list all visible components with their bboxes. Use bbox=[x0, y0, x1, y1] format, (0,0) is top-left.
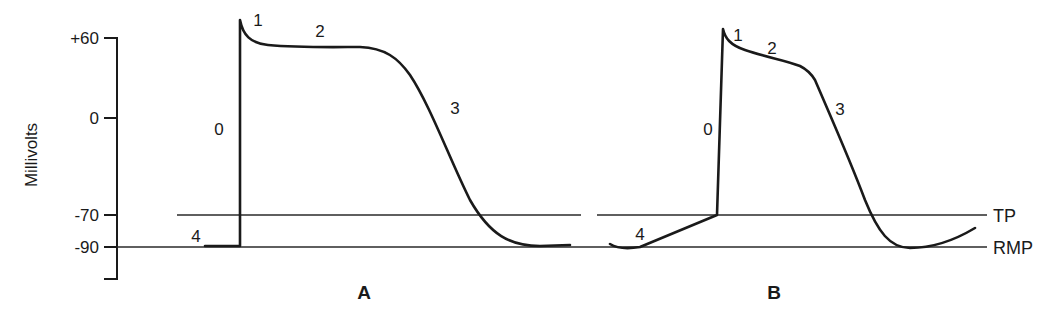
phase-label-b-0: 0 bbox=[703, 120, 712, 139]
tp-label: TP bbox=[993, 206, 1016, 226]
phase-label-b-2: 2 bbox=[767, 39, 776, 58]
phase-label-b-1: 1 bbox=[733, 26, 742, 45]
phase-label-a-1: 1 bbox=[253, 11, 262, 30]
phase-label-a-3: 3 bbox=[450, 99, 459, 118]
y-axis-label: Millivolts bbox=[22, 123, 41, 187]
phase-label-b-4: 4 bbox=[635, 225, 644, 244]
reference-lines: TP RMP bbox=[117, 206, 1033, 258]
tick-label-plus60: +60 bbox=[70, 29, 99, 48]
phase-label-a-4: 4 bbox=[191, 227, 200, 246]
y-axis: +60 0 -70 -90 Millivolts bbox=[22, 29, 117, 279]
panel-a: 0 1 2 3 4 A bbox=[191, 11, 570, 303]
rmp-label: RMP bbox=[993, 238, 1033, 258]
phase-label-a-2: 2 bbox=[315, 22, 324, 41]
y-axis-line bbox=[104, 38, 117, 279]
tick-label-0: 0 bbox=[90, 109, 99, 128]
panel-label-b: B bbox=[767, 282, 781, 303]
phase-label-a-0: 0 bbox=[214, 120, 223, 139]
panel-b: 0 1 2 3 4 B bbox=[610, 26, 975, 303]
panel-label-a: A bbox=[357, 282, 371, 303]
tick-label-minus70: -70 bbox=[74, 206, 99, 225]
action-potential-trace-a bbox=[205, 20, 570, 246]
phase-label-b-3: 3 bbox=[835, 100, 844, 119]
action-potential-figure: +60 0 -70 -90 Millivolts TP RMP 0 1 2 3 … bbox=[0, 0, 1051, 313]
tick-label-minus90: -90 bbox=[74, 238, 99, 257]
